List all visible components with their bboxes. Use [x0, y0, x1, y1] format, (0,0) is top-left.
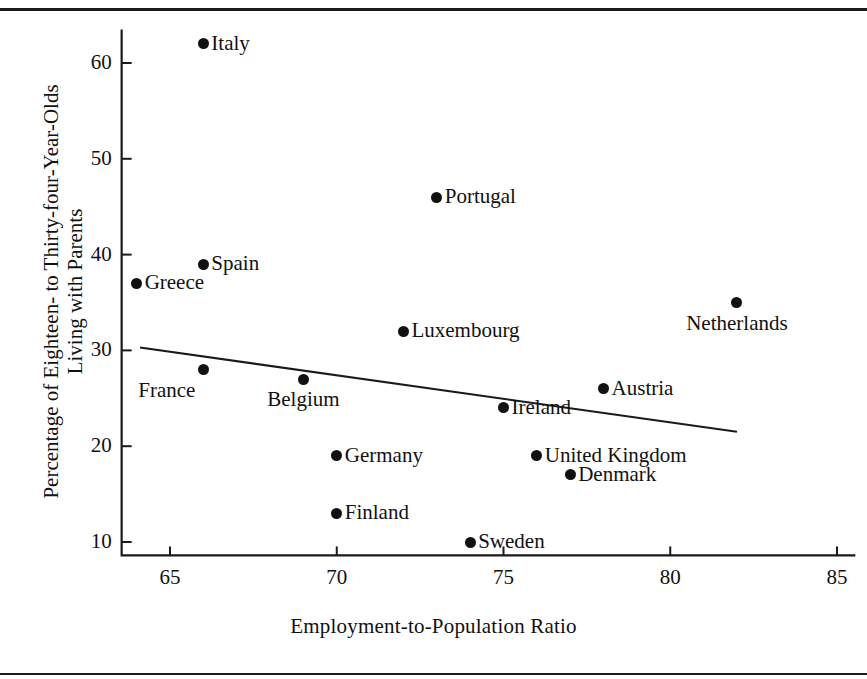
point-label: Belgium: [267, 389, 339, 410]
y-axis-title-line-2: Living with Parents: [64, 32, 88, 552]
point-label: Germany: [345, 445, 423, 466]
x-tick-label-65: 65: [155, 565, 185, 590]
point-label: Luxembourg: [411, 320, 519, 341]
figure-container: 6570758085102030405060 ItalyPortugalSpai…: [0, 0, 867, 679]
data-point: [331, 508, 342, 519]
data-point: [298, 374, 309, 385]
x-tick-label-70: 70: [322, 565, 352, 590]
y-axis-title-line-1: Percentage of Eighteen- to Thirty-four-Y…: [40, 32, 64, 552]
data-point: [465, 537, 476, 548]
point-label: Sweden: [478, 531, 545, 552]
data-point: [431, 192, 442, 203]
x-tick-label-75: 75: [489, 565, 519, 590]
point-label: Denmark: [578, 464, 656, 485]
point-label: Finland: [345, 502, 409, 523]
point-label: Netherlands: [686, 313, 787, 334]
x-axis-title: Employment-to-Population Ratio: [0, 614, 867, 639]
x-tick-label-85: 85: [822, 565, 852, 590]
data-point: [198, 259, 209, 270]
y-axis-title: Percentage of Eighteen- to Thirty-four-Y…: [40, 32, 87, 552]
point-label: Greece: [145, 272, 204, 293]
x-tick-label-80: 80: [655, 565, 685, 590]
axis-lines: [122, 29, 856, 555]
data-point: [131, 278, 142, 289]
point-label: Austria: [612, 378, 674, 399]
point-label: France: [138, 380, 195, 401]
data-point: [398, 326, 409, 337]
data-point: [198, 364, 209, 375]
point-label: Spain: [211, 253, 259, 274]
point-label: Ireland: [512, 397, 571, 418]
point-label: Italy: [211, 33, 249, 54]
point-label: Portugal: [445, 186, 516, 207]
